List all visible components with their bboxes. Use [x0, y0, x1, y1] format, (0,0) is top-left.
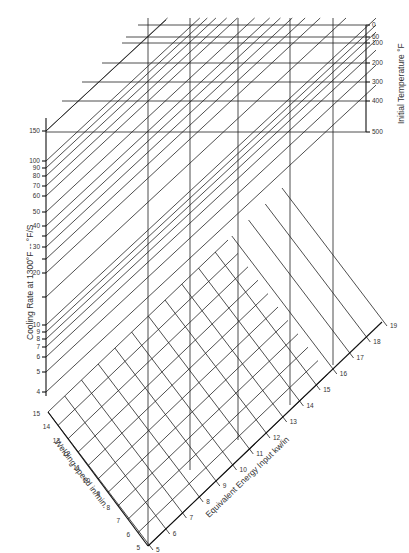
energy-input-tick-label: 5 [156, 546, 160, 553]
initial-temperature-tick-label: 300 [372, 78, 383, 85]
energy-input-grid-line [282, 188, 387, 326]
cooling-rate-diagonal [46, 85, 376, 392]
welding-speed-grid-line [48, 240, 228, 412]
energy-input-tick-label: 14 [306, 402, 314, 409]
cooling-rate-tick-label: 70 [33, 182, 41, 189]
welding-speed-grid-line [88, 294, 268, 466]
energy-input-tick-label: 6 [173, 530, 177, 537]
energy-input-grid-line [182, 284, 287, 422]
grid-lines [46, 18, 387, 550]
cooling-rate-diagonal [46, 18, 292, 247]
welding-speed-grid-line [138, 361, 318, 533]
welding-speed-grid-line [78, 280, 258, 452]
cooling-rate-tick-label: 6 [36, 353, 40, 360]
initial-temperature-tick-label: 0 [372, 21, 376, 28]
initial-temperature-tick-label: 500 [372, 128, 383, 135]
initial-temperature-tick-label: 400 [372, 97, 383, 104]
energy-input-tick-label: 19 [390, 322, 398, 329]
cooling-rate-tick-label: 5 [36, 368, 40, 375]
welding-speed-tick-label: 6 [126, 531, 130, 538]
cooling-rate-axis-label: Cooling Rate at 1300°F -- °F/S [25, 224, 35, 340]
energy-input-tick-label: 16 [340, 370, 348, 377]
cooling-rate-diagonal [46, 50, 376, 357]
energy-input-tick-label: 18 [373, 338, 381, 345]
cooling-rate-diagonal [46, 25, 376, 332]
energy-input-grid-line [132, 332, 237, 470]
energy-input-tick-label: 17 [357, 354, 365, 361]
cooling-rate-tick-label: 150 [29, 127, 40, 134]
cooling-rate-diagonal [46, 18, 237, 196]
energy-input-grid-line [265, 204, 370, 342]
welding-speed-tick-label: 14 [43, 423, 51, 430]
cooling-rate-diagonal [46, 18, 320, 273]
cooling-rate-tick-label: 7 [36, 343, 40, 350]
nomograph-chart: 4567891020304050607080901001500601002003… [0, 0, 409, 553]
energy-input-grid-line [165, 300, 270, 438]
cooling-rate-tick-label: 50 [33, 208, 41, 215]
energy-input-axis-label: Equivalent Energy Input kw/in [203, 434, 291, 519]
welding-speed-axis [48, 412, 148, 546]
welding-speed-grid-line [68, 267, 248, 439]
energy-input-tick-label: 8 [206, 498, 210, 505]
cooling-rate-diagonal [46, 18, 346, 297]
cooling-rate-diagonal [46, 32, 376, 339]
energy-input-grid-line [232, 236, 337, 374]
energy-input-grid-line [148, 316, 253, 454]
energy-input-tick-label: 9 [223, 482, 227, 489]
energy-input-grid-line [115, 348, 220, 486]
cooling-rate-diagonal [46, 18, 200, 161]
energy-input-tick-label: 15 [323, 386, 331, 393]
energy-input-grid-line [98, 364, 203, 502]
welding-speed-axis-label: Welding speed in/min. [52, 437, 110, 510]
cooling-rate-tick-label: 8 [36, 335, 40, 342]
energy-input-grid-line [249, 220, 354, 358]
welding-speed-tick-label: 7 [116, 517, 120, 524]
initial-temperature-tick-label: 200 [372, 59, 383, 66]
cooling-rate-tick-label: 9 [36, 328, 40, 335]
energy-input-grid-line [215, 252, 320, 390]
cooling-rate-diagonal [46, 18, 255, 212]
welding-speed-grid-line [98, 307, 278, 479]
cooling-rate-tick-label: 90 [33, 164, 41, 171]
energy-input-tick-label: 13 [290, 418, 298, 425]
welding-speed-grid-line [118, 334, 298, 506]
welding-speed-grid-line [128, 347, 308, 519]
energy-input-tick-label: 7 [189, 514, 193, 521]
cooling-rate-diagonal [46, 18, 280, 236]
cooling-rate-diagonal [46, 18, 216, 176]
energy-input-grid-line [198, 268, 303, 406]
cooling-rate-tick-label: 60 [33, 192, 41, 199]
initial-temperature-axis-label: Initial Temperature °F [396, 43, 406, 124]
cooling-rate-tick-label: 4 [36, 388, 40, 395]
cooling-rate-diagonal [46, 40, 376, 347]
cooling-rate-diagonal [46, 65, 376, 372]
cooling-rate-diagonal [46, 18, 305, 259]
welding-speed-tick-label: 15 [33, 410, 41, 417]
cooling-rate-tick-label: 80 [33, 172, 41, 179]
welding-speed-tick-label: 5 [136, 544, 140, 551]
initial-temperature-tick-label: 100 [372, 39, 383, 46]
cooling-rate-tick-label: 100 [29, 157, 40, 164]
